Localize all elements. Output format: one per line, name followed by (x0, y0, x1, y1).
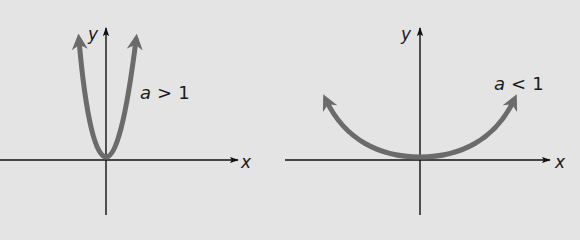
narrow-parabola-curve (79, 40, 106, 157)
y-axis-label: y (87, 24, 99, 44)
wide-parabola-curve (326, 100, 420, 157)
parabola-comparison-diagram: x y a>1 x y a<1 (0, 0, 580, 240)
y-axis-label: y (400, 24, 412, 44)
right-graph: x y a<1 (285, 24, 566, 215)
curve-label-a-lt-1: a<1 (494, 73, 544, 94)
x-axis-label: x (240, 152, 252, 172)
left-graph: x y a>1 (0, 24, 252, 215)
wide-parabola-curve-right (420, 100, 514, 157)
x-axis-label: x (554, 152, 566, 172)
curve-label-a-gt-1: a>1 (140, 82, 190, 103)
narrow-parabola-curve-right (106, 40, 136, 157)
figure-panel: x y a>1 x y a<1 (0, 0, 580, 240)
